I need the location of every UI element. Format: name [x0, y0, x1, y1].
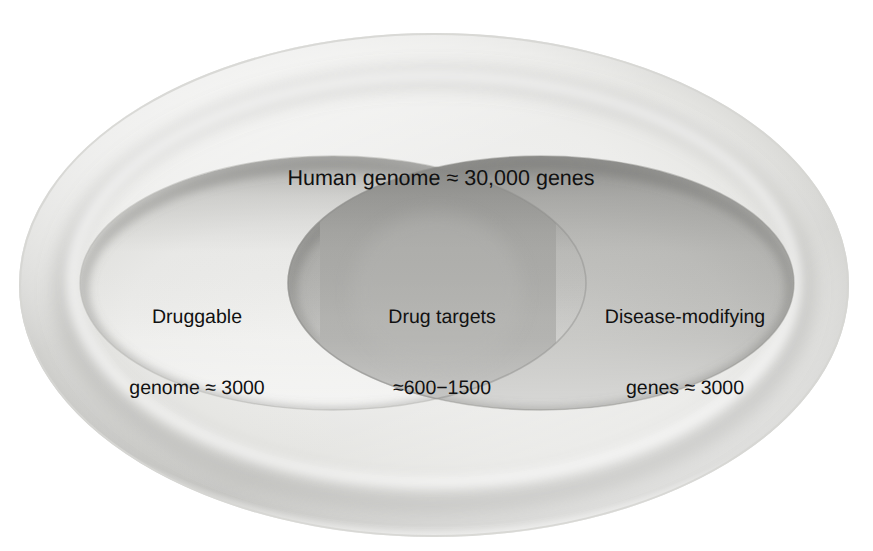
drug-targets-lens-inner-glow — [351, 212, 523, 372]
venn-diagram-figure: Human genome ≈ 30,000 genes Druggable ge… — [0, 0, 873, 551]
venn-diagram-canvas — [0, 0, 873, 551]
